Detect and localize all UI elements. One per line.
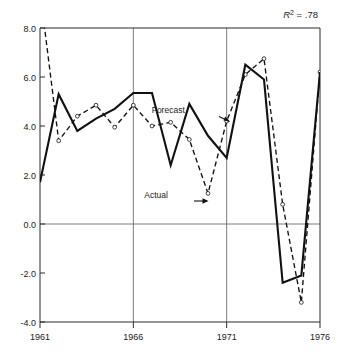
forecast-data-point	[206, 191, 210, 195]
xtick-label-1961: 1961	[30, 332, 50, 342]
ytick-label-6: 6.0	[23, 73, 36, 83]
svg-text:R2 = .78: R2 = .78	[283, 9, 318, 21]
forecast-label: Forecast	[152, 105, 186, 115]
actual-label: Actual	[144, 190, 168, 200]
forecast-data-point	[113, 125, 117, 129]
forecast-data-point	[281, 203, 285, 207]
xtick-label-1971: 1971	[217, 332, 237, 342]
forecast-data-point	[94, 103, 98, 107]
forecast-data-point	[57, 139, 61, 143]
forecast-data-point	[299, 301, 303, 305]
forecast-data-point	[150, 124, 154, 128]
xtick-label-1976: 1976	[310, 332, 330, 342]
forecast-data-point	[187, 138, 191, 142]
forecast-data-point	[262, 57, 266, 61]
forecast-vs-actual-chart: R2 = .78	[0, 0, 348, 354]
chart-figure: R2 = .78	[0, 0, 348, 354]
ytick-label-neg4: -4.0	[20, 318, 36, 328]
forecast-data-point	[75, 114, 79, 118]
ytick-label-2: 2.0	[23, 171, 36, 181]
ytick-label-8: 8.0	[23, 24, 36, 34]
ytick-label-neg2: -2.0	[20, 269, 36, 279]
chart-background	[0, 0, 348, 354]
forecast-data-point	[169, 120, 173, 124]
xtick-label-1966: 1966	[123, 332, 143, 342]
ytick-label-0: 0.0	[23, 220, 36, 230]
ytick-label-4: 4.0	[23, 122, 36, 132]
forecast-data-point	[131, 103, 135, 107]
r-squared-value: = .78	[294, 9, 318, 20]
r-squared-annotation: R2 = .78	[283, 9, 318, 21]
